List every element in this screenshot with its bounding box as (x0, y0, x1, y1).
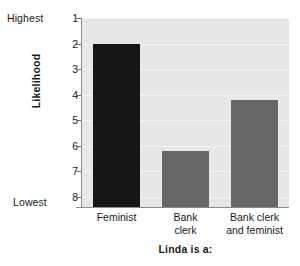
y-tick-label-3: 3 (58, 64, 78, 75)
category-label-bank-clerk-and-feminist: Bank clerkand feminist (214, 211, 295, 236)
bar-chart-figure: Highest Lowest Likelihood 12345678 Femin… (0, 0, 300, 266)
plot-area (82, 18, 289, 207)
y-axis-lowest-label: Lowest (13, 196, 47, 208)
y-tick-label-2: 2 (58, 38, 78, 49)
bar-bank-clerk (162, 151, 209, 207)
y-axis-tick-labels: 12345678 (58, 0, 78, 266)
x-axis-line (76, 207, 289, 208)
y-tick-label-5: 5 (58, 115, 78, 126)
y-tick-label-1: 1 (58, 13, 78, 24)
y-axis-line (81, 18, 82, 208)
y-tick-label-6: 6 (58, 140, 78, 151)
gridline-1 (82, 18, 289, 19)
y-axis-highest-label: Highest (7, 12, 43, 24)
category-label-line: Bank clerk (214, 211, 295, 224)
y-axis-title: Likelihood (30, 41, 42, 121)
y-tick-label-8: 8 (58, 192, 78, 203)
bar-feminist (93, 44, 140, 207)
x-axis-title: Linda is a: (82, 243, 289, 255)
y-tick-label-4: 4 (58, 89, 78, 100)
bar-bank-clerk-and-feminist (231, 100, 278, 207)
y-tick-label-7: 7 (58, 166, 78, 177)
category-label-line: and feminist (214, 224, 295, 237)
